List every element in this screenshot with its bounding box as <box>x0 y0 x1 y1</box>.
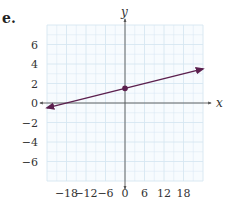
x-tick-label: 0 <box>122 187 129 200</box>
y-tick-label: 4 <box>31 58 38 71</box>
y-tick-label: −4 <box>22 136 38 149</box>
y-tick-label: −2 <box>22 117 38 130</box>
chart: xy−18−12−60612186420−2−4−6 <box>0 0 231 215</box>
x-tick-label: −6 <box>97 187 113 200</box>
x-tick-label: 18 <box>177 187 191 200</box>
y-tick-label: 6 <box>31 39 38 52</box>
y-tick-label: −6 <box>22 156 38 169</box>
data-point <box>122 86 128 92</box>
y-tick-label: 0 <box>31 97 38 110</box>
x-tick-label: 6 <box>141 187 148 200</box>
y-axis-label: y <box>120 5 128 19</box>
x-tick-label: −12 <box>74 187 97 200</box>
x-axis-label: x <box>216 96 223 110</box>
x-tick-label: 12 <box>157 187 171 200</box>
y-tick-label: 2 <box>31 78 38 91</box>
